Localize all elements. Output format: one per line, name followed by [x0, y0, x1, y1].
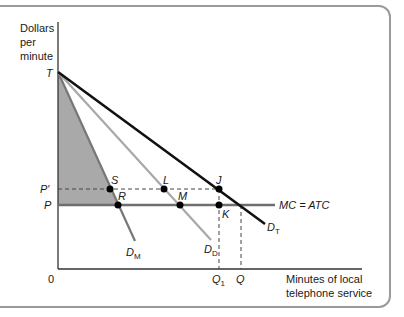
label-k: K — [222, 208, 230, 220]
demand-diagram: Dollars per minute T P′ P S R L M J K MC… — [0, 0, 404, 317]
label-d-t: DT — [267, 221, 280, 236]
point-m — [177, 202, 184, 209]
x-axis-label-line1: Minutes of local — [286, 273, 362, 285]
label-r: R — [118, 190, 126, 202]
y-axis-label-line3: minute — [20, 50, 53, 62]
label-d-d: DD — [204, 243, 218, 258]
x-axis-label-line2: telephone service — [286, 287, 372, 299]
label-p-prime: P′ — [40, 183, 50, 195]
label-l: L — [163, 174, 169, 186]
label-s: S — [111, 174, 119, 186]
y-axis-label-line2: per — [20, 36, 36, 48]
label-mc-atc: MC = ATC — [279, 199, 329, 211]
point-j — [216, 186, 223, 193]
label-q1: Q1 — [212, 273, 226, 288]
label-d-m: DM — [126, 246, 141, 261]
point-r — [115, 202, 122, 209]
label-q: Q — [236, 273, 245, 285]
point-s — [107, 186, 114, 193]
origin-label: 0 — [48, 273, 54, 285]
label-t: T — [46, 67, 54, 79]
label-m: M — [178, 190, 188, 202]
label-j: J — [215, 174, 222, 186]
y-axis-label-line1: Dollars — [20, 22, 55, 34]
point-l — [161, 186, 168, 193]
label-p: P — [44, 199, 52, 211]
